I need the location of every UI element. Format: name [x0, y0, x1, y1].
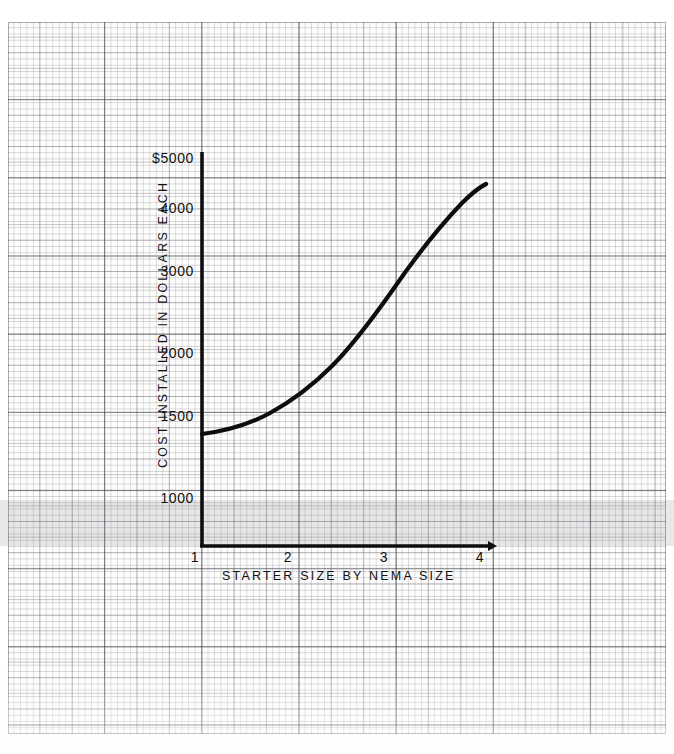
- chart-page: $5000 4000 3000 2000 1500 1000 1 2 3 4 S…: [0, 0, 674, 754]
- x-tick-label-2: 2: [284, 549, 292, 565]
- y-tick-label-1000: 1000: [160, 490, 194, 506]
- chart-plot: $5000 4000 3000 2000 1500 1000 1 2 3 4 S…: [0, 0, 674, 754]
- x-tick-labels: 1 2 3 4: [191, 549, 484, 565]
- x-axis-arrow-icon: [488, 541, 497, 551]
- x-axis-title: STARTER SIZE BY NEMA SIZE: [222, 569, 456, 583]
- x-tick-label-3: 3: [380, 549, 388, 565]
- x-tick-label-1: 1: [191, 549, 199, 565]
- y-axis-title: COST INSTALLED IN DOLLARS EACH: [156, 181, 170, 468]
- y-tick-label-5000: $5000: [152, 150, 194, 166]
- x-tick-label-4: 4: [476, 549, 484, 565]
- cost-curve: [202, 184, 486, 434]
